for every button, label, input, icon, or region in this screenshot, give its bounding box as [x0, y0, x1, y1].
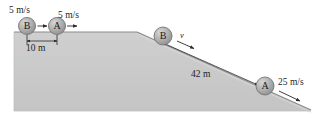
label-incline-distance: 42 m [191, 70, 210, 80]
label-incline-velocity: v [180, 31, 184, 40]
label-bottom-speed-a: 25 m/s [278, 78, 304, 88]
label-top-speed-a: 5 m/s [58, 11, 79, 21]
ball-b-incline [154, 27, 172, 45]
label-top-speed-b: 5 m/s [9, 6, 30, 16]
figure-canvas: 5 m/s 5 m/s 10 m v 42 m 25 m/s B A B A [0, 0, 330, 124]
ball-b-top [19, 18, 36, 35]
physics-diagram [0, 0, 330, 124]
ball-a-incline [256, 77, 274, 95]
label-plateau-distance: 10 m [26, 44, 45, 54]
velocity-arrow-b-incline [177, 41, 194, 49]
